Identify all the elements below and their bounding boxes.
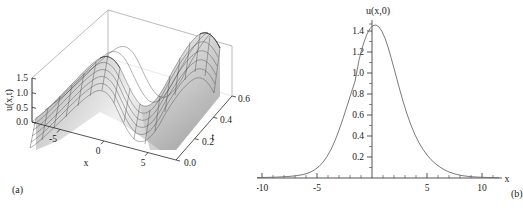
z-axis-label: u(x,t) (3, 89, 15, 111)
z-tick-label-1-5: 1.5 (16, 73, 28, 83)
panel-b-caption: (b) (511, 188, 523, 199)
panel-a-caption: (a) (12, 184, 23, 195)
b-y-tick-label-1-0: 1.0 (352, 68, 364, 78)
x-tick-label-5: 5 (141, 158, 146, 168)
profile-plot-svg: -10 -5 5 10 x (257, 0, 514, 213)
b-x-tick-label-minus10: -10 (257, 183, 269, 193)
panel-a-surface-plot: 1.5 1.0 0.5 0.0 u(x,t) -5 0 5 x (0, 0, 257, 213)
b-y-tick-label-1-4: 1.4 (352, 26, 364, 36)
b-y-tick-label-0-8: 0.8 (352, 89, 364, 99)
panel-b-profile-plot: -10 -5 5 10 x (257, 0, 514, 213)
t-axis-label: t (212, 131, 215, 142)
x-axis-label-3d: x (84, 157, 89, 168)
b-y-tick-label-0-4: 0.4 (352, 131, 364, 141)
z-tick-label-0-0: 0.0 (16, 117, 28, 127)
x-tick-label-minus5: -5 (49, 134, 57, 144)
t-tick-label-0-6: 0.6 (238, 94, 250, 104)
b-x-tick-label-minus5: -5 (313, 183, 321, 193)
t-tick-label-0-0: 0.0 (184, 158, 196, 168)
b-x-axis-label: x (505, 173, 510, 184)
t-tick-label-0-4: 0.4 (220, 115, 232, 125)
z-tick-label-1-0: 1.0 (16, 88, 28, 98)
b-x-tick-label-10: 10 (477, 183, 487, 193)
x-tick-label-0: 0 (96, 146, 101, 156)
z-axis (32, 78, 36, 123)
b-y-tick-label-0-2: 0.2 (352, 152, 364, 162)
profile-curve (257, 25, 499, 178)
y-axis-2d (367, 20, 372, 178)
b-x-tick-label-5: 5 (425, 183, 430, 193)
x-axis-2d (257, 173, 502, 178)
b-plot-title: u(x,0) (366, 5, 390, 17)
b-y-tick-label-0-6: 0.6 (352, 110, 364, 120)
surface-body (36, 33, 220, 150)
surface-plot-svg: 1.5 1.0 0.5 0.0 u(x,t) -5 0 5 x (0, 0, 257, 213)
z-tick-label-0-5: 0.5 (16, 103, 28, 113)
